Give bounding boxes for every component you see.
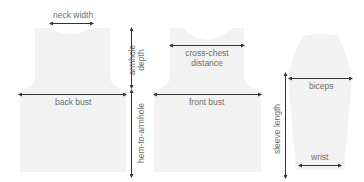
biceps-label: biceps	[309, 81, 334, 91]
armhole-depth-label: armhole depth	[128, 40, 148, 80]
neck-width-label: neck width	[53, 10, 93, 20]
front-bust-label: front bust	[189, 97, 224, 107]
cross-chest-label: cross-chest distance	[170, 48, 244, 68]
armhole-depth-line2: depth	[137, 40, 146, 80]
sleeve-length-label: sleeve length	[272, 99, 282, 159]
schematic-canvas	[0, 0, 364, 182]
cross-chest-line2: distance	[170, 58, 244, 68]
sleeve-piece	[288, 34, 352, 170]
hem-to-armhole-label: hem-to-armhole	[136, 98, 146, 168]
wrist-label: wrist	[311, 152, 328, 162]
back-bust-label: back bust	[55, 97, 91, 107]
cross-chest-line1: cross-chest	[170, 48, 244, 58]
